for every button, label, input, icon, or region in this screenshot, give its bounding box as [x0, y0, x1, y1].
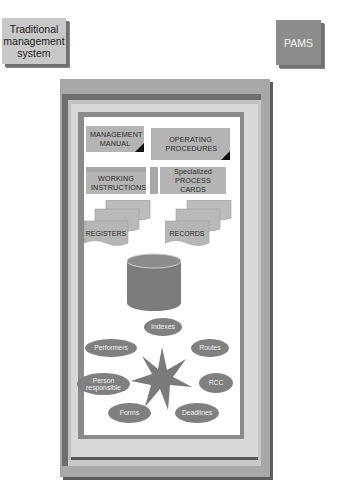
operating-procedures-label: OPERATING PROCEDURES [166, 135, 216, 153]
deadlines-ellipse: Deadlines [175, 403, 219, 423]
deadlines-label: Deadlines [182, 409, 212, 417]
person-responsible-ellipse: Person responsible [77, 373, 130, 395]
working-instructions-label: WORKING INSTRUCTIONS [91, 174, 141, 192]
rcc-label: RCC [209, 379, 224, 387]
traditional-management-system-box: Traditional management system [2, 18, 66, 64]
routes-ellipse: Routes [191, 339, 229, 357]
traditional-label: Traditional management system [2, 23, 66, 59]
registers-label: REGISTERS [82, 230, 130, 237]
management-manual-label: MANAGEMENT MANUAL [90, 130, 140, 148]
card-tab [150, 167, 158, 194]
database-icon [126, 253, 182, 313]
forms-ellipse: Forms [108, 403, 151, 423]
document-stack-icon [84, 200, 156, 252]
specialized-process-cards-label: Specialized PROCESS CARDS [165, 167, 221, 194]
indexes-ellipse: Indexes [144, 318, 182, 336]
pams-box: PAMS [276, 20, 321, 65]
performers-label: Performers [94, 344, 128, 352]
pams-label: PAMS [284, 37, 313, 49]
forms-label: Forms [120, 409, 139, 417]
corner-fold-icon [221, 151, 230, 160]
corner-fold-icon [135, 143, 144, 152]
operating-procedures-card: OPERATING PROCEDURES [151, 128, 230, 160]
rcc-ellipse: RCC [199, 373, 233, 393]
specialized-process-cards-card: Specialized PROCESS CARDS [160, 167, 226, 194]
routes-label: Routes [199, 344, 221, 352]
star-icon [131, 347, 193, 411]
person-responsible-label: Person responsible [83, 377, 125, 392]
management-manual-card: MANAGEMENT MANUAL [86, 126, 144, 152]
working-instructions-card: WORKING INSTRUCTIONS [86, 172, 146, 194]
records-label: RECORDS [163, 230, 211, 237]
document-stack-icon [165, 200, 237, 252]
indexes-label: Indexes [151, 323, 175, 331]
performers-ellipse: Performers [85, 339, 137, 357]
